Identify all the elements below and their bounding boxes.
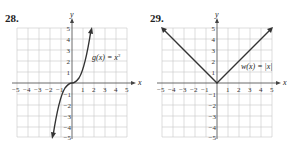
svg-text:4: 4 [67,36,71,44]
y-axis-label: y [69,10,74,19]
svg-text:−2: −2 [45,86,53,94]
svg-text:−1: −1 [64,91,72,99]
svg-text:−3: −3 [64,113,72,121]
svg-text:5: 5 [270,86,274,94]
svg-text:4: 4 [259,86,263,94]
svg-text:3: 3 [212,47,216,55]
svg-text:−4: −4 [168,86,176,94]
svg-text:2: 2 [237,86,241,94]
svg-text:−4: −4 [64,124,72,132]
graph-absolute-value: x y −5 −4 −3 −2 −1 1 2 3 4 5 5 4 3 2 1 −… [145,0,291,146]
svg-text:2: 2 [67,58,71,66]
y-tick-labels: 5 4 3 2 1 −1 −2 −3 −4 −5 [209,25,217,142]
axes [157,20,278,139]
svg-text:2: 2 [212,58,216,66]
x-axis-arrow-icon [131,81,136,85]
svg-text:5: 5 [67,25,71,33]
svg-text:1: 1 [67,69,71,77]
svg-text:3: 3 [103,86,107,94]
x-axis-label: x [282,78,287,87]
svg-text:−2: −2 [190,86,198,94]
svg-text:−5: −5 [157,86,165,94]
svg-text:−5: −5 [64,134,72,142]
svg-text:−3: −3 [34,86,42,94]
graph-cubic: x y −5 −4 −3 −2 −1 1 2 3 4 5 5 4 3 2 1 −… [0,0,145,146]
svg-text:1: 1 [81,86,85,94]
svg-text:4: 4 [114,86,118,94]
svg-text:−5: −5 [12,86,20,94]
axes [12,20,133,139]
svg-text:5: 5 [125,86,129,94]
svg-text:5: 5 [212,25,216,33]
svg-text:−2: −2 [209,102,217,110]
problem-28: 28. x y −5 −4 −3 −2 −1 1 2 [0,0,145,146]
problem-29: 29. x y −5 −4 −3 −2 −1 1 2 [145,0,290,146]
svg-text:−4: −4 [23,86,31,94]
svg-text:−3: −3 [209,113,217,121]
svg-text:1: 1 [212,69,216,77]
x-axis-label: x [137,78,142,87]
svg-text:1: 1 [226,86,230,94]
svg-text:−2: −2 [64,102,72,110]
svg-text:2: 2 [92,86,96,94]
x-axis-arrow-icon [276,81,281,85]
svg-text:−5: −5 [209,134,217,142]
svg-text:−3: −3 [179,86,187,94]
svg-text:−4: −4 [209,124,217,132]
svg-text:4: 4 [212,36,216,44]
svg-text:−1: −1 [209,91,217,99]
curve-arrow-down-icon [51,132,56,139]
svg-text:3: 3 [67,47,71,55]
svg-text:3: 3 [248,86,252,94]
function-label: w(x) = |x| [241,62,273,71]
y-axis-label: y [214,10,219,19]
function-label: g(x) = x3 [92,53,121,62]
